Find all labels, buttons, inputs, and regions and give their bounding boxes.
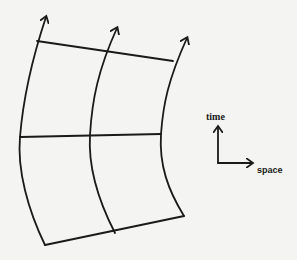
worldline-left [20,17,46,245]
worldline-right [161,38,187,216]
time-axis-label: time [206,111,225,122]
spacetime-diagram [0,0,297,260]
space-axis-label: space [257,165,283,175]
worldline-middle [90,28,117,233]
cross-line-bottom [45,216,184,245]
